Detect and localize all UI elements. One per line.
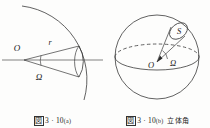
caption-a-number: 3	[45, 116, 49, 125]
caption-b-separator: ·	[143, 116, 146, 125]
label-radius-a: r	[48, 38, 52, 47]
label-solid-angle-a: Ω	[36, 72, 43, 82]
label-origin-a: O	[14, 43, 21, 53]
solid-angle-arc	[40, 56, 41, 66]
sphere-arc	[22, 6, 87, 100]
cap-edge-back	[75, 46, 79, 77]
figure-pair: O r Ω 図3 · 10(a)	[0, 0, 210, 128]
cone-ray-lower	[24, 60, 79, 77]
caption-a-index: 10	[56, 116, 64, 125]
label-origin-b: O	[148, 60, 154, 70]
figure-a-drawing: O r Ω	[0, 0, 105, 110]
label-solid-angle-b: Ω	[170, 58, 176, 68]
figure-b-drawing: O Ω S	[105, 0, 210, 110]
caption-b: 図3 · 10(b)立体角	[105, 116, 210, 126]
cone-edge-left	[157, 27, 171, 62]
figure-panel-b: O Ω S 図3 · 10(b)立体角	[105, 0, 210, 128]
equator-front	[115, 57, 199, 70]
caption-b-number: 3	[137, 116, 141, 125]
caption-b-index: 10	[148, 116, 156, 125]
cone-ray-upper	[24, 46, 79, 60]
label-area-s: S	[177, 26, 182, 36]
equator-back	[115, 44, 199, 57]
caption-b-suffix: (b)	[156, 118, 164, 124]
caption-b-symbol: 図	[126, 116, 136, 126]
caption-b-extra: 立体角	[167, 117, 189, 125]
cone-vertex-marker	[157, 56, 163, 63]
caption-a: 図3 · 10(a)	[0, 116, 105, 126]
figure-panel-a: O r Ω 図3 · 10(a)	[0, 0, 105, 128]
caption-a-symbol: 図	[34, 116, 44, 126]
cap-edge-front	[79, 46, 83, 77]
caption-a-separator: ·	[51, 116, 54, 125]
sphere-outline	[115, 15, 199, 99]
caption-a-suffix: (a)	[64, 118, 71, 124]
